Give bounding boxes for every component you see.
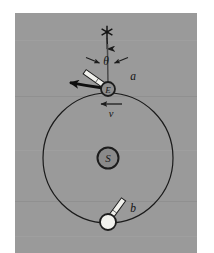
orbit-position-b-label: b: [130, 202, 136, 214]
sun-marker[interactable]: S: [98, 148, 119, 169]
earth-marker-position-a[interactable]: E: [101, 82, 115, 96]
earth-a-label: E: [104, 85, 111, 95]
velocity-label: v: [109, 108, 114, 119]
theta-label: θ: [103, 55, 109, 67]
figure-root: θ E a v S: [0, 0, 214, 253]
earth-marker-position-b[interactable]: [100, 214, 116, 230]
orbit-position-a-label: a: [130, 70, 136, 82]
sun-label: S: [105, 152, 111, 164]
earth-b-disc: [100, 214, 116, 230]
stellar-aberration-diagram: θ E a v S: [0, 0, 214, 253]
